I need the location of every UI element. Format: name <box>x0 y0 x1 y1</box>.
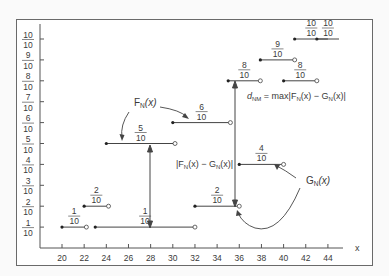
y-tick-numerator: 1 <box>26 218 31 228</box>
step-value-denominator: 10 <box>273 49 283 59</box>
open-endpoint <box>258 79 262 83</box>
G-series-label: GN(x) <box>306 175 330 187</box>
x-tick-label: 36 <box>235 253 245 263</box>
x-tick-label: 42 <box>301 253 311 263</box>
step-value-denominator: 10 <box>323 28 333 38</box>
y-tick-denominator: 10 <box>23 103 33 113</box>
step-value-numerator: 2 <box>215 185 220 195</box>
step-value-numerator: 10 <box>307 18 317 28</box>
x-tick-label: 34 <box>212 253 222 263</box>
x-tick-label: 44 <box>323 253 333 263</box>
y-tick-numerator: 2 <box>26 197 31 207</box>
y-tick-denominator: 10 <box>23 82 33 92</box>
closed-endpoint <box>259 58 262 61</box>
x-tick-label: 40 <box>279 253 289 263</box>
closed-endpoint <box>105 142 108 145</box>
step-value-denominator: 10 <box>307 28 317 38</box>
y-tick-denominator: 10 <box>23 186 33 196</box>
closed-endpoint <box>60 226 63 229</box>
ks-test-figure: x 20222426283032343638404244 11021031041… <box>0 0 389 276</box>
x-tick-label: 30 <box>168 253 178 263</box>
closed-endpoint <box>171 121 174 124</box>
y-tick-denominator: 10 <box>23 207 33 217</box>
y-tick-numerator: 4 <box>26 155 31 165</box>
open-endpoint <box>107 204 111 208</box>
y-tick-numerator: 10 <box>23 30 33 40</box>
closed-endpoint <box>193 205 196 208</box>
step-value-denominator: 10 <box>295 70 305 80</box>
step-value-denominator: 10 <box>240 70 250 80</box>
open-endpoint <box>228 121 232 125</box>
closed-endpoint <box>282 79 285 82</box>
y-tick-numerator: 5 <box>26 134 31 144</box>
step-value-numerator: 6 <box>199 102 204 112</box>
y-tick-numerator: 9 <box>26 50 31 60</box>
closed-endpoint <box>315 37 318 40</box>
open-endpoint <box>173 142 177 146</box>
open-endpoint <box>193 225 197 229</box>
y-tick-denominator: 10 <box>23 40 33 50</box>
y-tick-denominator: 10 <box>23 61 33 71</box>
closed-endpoint <box>238 163 241 166</box>
step-value-numerator: 1 <box>72 206 77 216</box>
y-tick-denominator: 10 <box>23 165 33 175</box>
F-series-label: FN(x) <box>134 97 156 109</box>
x-tick-label: 20 <box>57 253 67 263</box>
y-tick-denominator: 10 <box>23 124 33 134</box>
step-value-denominator: 10 <box>257 153 267 163</box>
x-axis-label: x <box>355 243 360 253</box>
y-tick-numerator: 8 <box>26 71 31 81</box>
step-value-numerator: 10 <box>323 18 333 28</box>
x-tick-label: 32 <box>190 253 200 263</box>
closed-endpoint <box>293 37 296 40</box>
closed-endpoint <box>94 226 97 229</box>
step-value-denominator: 10 <box>136 133 146 143</box>
step-value-numerator: 5 <box>138 123 143 133</box>
step-value-numerator: 2 <box>94 185 99 195</box>
step-value-denominator: 10 <box>69 216 79 226</box>
step-value-denominator: 10 <box>197 112 207 122</box>
step-value-numerator: 1 <box>143 206 148 216</box>
step-value-numerator: 4 <box>259 143 264 153</box>
open-endpoint <box>84 225 88 229</box>
open-endpoint <box>315 79 319 83</box>
y-tick-denominator: 10 <box>23 145 33 155</box>
step-value-numerator: 8 <box>298 60 303 70</box>
x-tick-label: 26 <box>124 253 134 263</box>
closed-endpoint <box>83 205 86 208</box>
open-endpoint <box>293 58 297 62</box>
open-endpoint <box>282 162 286 166</box>
y-tick-numerator: 7 <box>26 92 31 102</box>
y-tick-numerator: 6 <box>26 113 31 123</box>
step-value-numerator: 8 <box>242 60 247 70</box>
step-value-denominator: 10 <box>92 195 102 205</box>
y-tick-denominator: 10 <box>23 228 33 238</box>
x-tick-label: 28 <box>146 253 156 263</box>
x-tick-label: 22 <box>79 253 89 263</box>
step-value-numerator: 9 <box>275 39 280 49</box>
y-tick-numerator: 3 <box>26 176 31 186</box>
open-endpoint <box>237 204 241 208</box>
step-value-denominator: 10 <box>212 195 222 205</box>
x-tick-label: 24 <box>102 253 112 263</box>
closed-endpoint <box>227 79 230 82</box>
x-tick-label: 38 <box>257 253 267 263</box>
